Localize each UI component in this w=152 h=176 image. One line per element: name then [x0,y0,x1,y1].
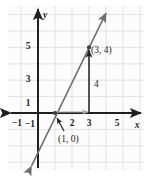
y-tick-label-5: 5 [26,41,31,51]
y-tick-label-minus-1: −1 [25,119,35,129]
coordinate-plane-figure: 5 3 1 −1 −1 2 3 5 y x (3, 4) (1, 0) 4 [0,0,152,176]
x-tick-label-minus-1: −1 [12,118,22,128]
rise-value-label: 4 [94,79,99,89]
point-marker-x-intercept [53,111,57,115]
y-tick-label-1: 1 [26,98,31,108]
graph-screenshot: 5 3 1 −1 −1 2 3 5 y x (3, 4) (1, 0) 4 [0,0,152,176]
x-tick-label-5: 5 [115,118,120,128]
point-label-3-4: (3, 4) [91,45,112,56]
x-axis-label: x [134,120,140,130]
y-axis-label: y [42,10,48,20]
point-label-1-0: (1, 0) [58,134,79,145]
y-tick-label-3: 3 [26,74,31,84]
x-tick-label-2: 2 [70,118,75,128]
coordinate-graph-svg: 5 3 1 −1 −1 2 3 5 y x (3, 4) (1, 0) 4 [0,0,152,176]
x-tick-label-3: 3 [87,118,92,128]
